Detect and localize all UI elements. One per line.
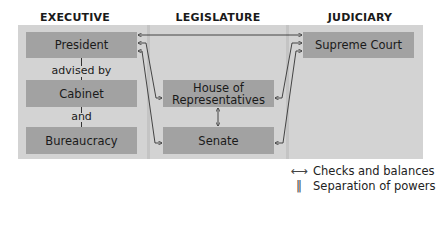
legend-checks-and-balances: ⟷ Checks and balances bbox=[288, 164, 435, 178]
legend-separation-label: Separation of powers bbox=[313, 179, 435, 193]
double-arrow-icon: ⟷ bbox=[288, 164, 310, 178]
double-bar-icon: ‖ bbox=[288, 179, 310, 193]
court-senate-arrow bbox=[275, 51, 302, 143]
legend-checks-label: Checks and balances bbox=[313, 164, 435, 178]
legend-separation-of-powers: ‖ Separation of powers bbox=[288, 179, 435, 193]
